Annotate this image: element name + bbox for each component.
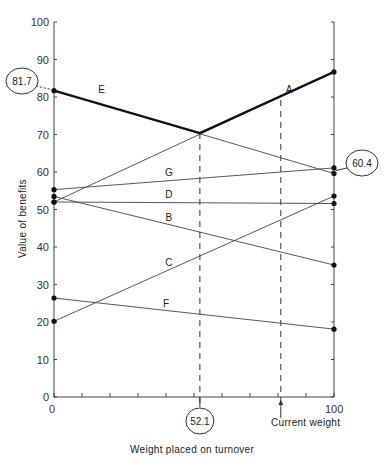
data-point [51, 187, 56, 192]
series-label-c: C [165, 257, 172, 268]
series-lines [54, 72, 334, 329]
chart: 0102030405060708090100 ABCDEFG 81.760.45… [0, 0, 384, 465]
data-point [51, 194, 56, 199]
data-point [331, 69, 336, 74]
data-point [331, 171, 336, 176]
x-tick-label-0: 0 [49, 403, 55, 415]
pointer-line [36, 86, 52, 90]
data-point [331, 165, 336, 170]
y-tick-label: 90 [37, 54, 49, 66]
series-labels: ABCDEFG [98, 84, 293, 309]
data-point [331, 262, 336, 267]
x-tick-label-100: 100 [325, 403, 343, 415]
y-tick-label: 80 [37, 91, 49, 103]
series-endpoints [51, 69, 336, 331]
x-axis-ticks [54, 393, 334, 397]
series-line-g [54, 168, 334, 190]
arrow-head-icon [278, 400, 283, 405]
data-point [51, 295, 56, 300]
y-tick-label: 60 [37, 166, 49, 178]
data-point [331, 193, 336, 198]
y-tick-label: 100 [31, 16, 49, 28]
series-line-b [54, 196, 334, 265]
y-tick-label: 50 [37, 204, 49, 216]
y-axis-title: Value of benefits [17, 179, 28, 258]
x-axis-title: Weight placed on turnover [130, 444, 254, 455]
circled-value-right-text: 60.4 [352, 158, 372, 169]
series-line-d [54, 202, 334, 204]
circled-value-bottom-text: 52.1 [190, 416, 210, 427]
data-point [331, 201, 336, 206]
upper-envelope [54, 72, 334, 133]
y-axis-ticks: 0102030405060708090100 [31, 16, 334, 403]
y-tick-label: 70 [37, 129, 49, 141]
data-point [51, 199, 56, 204]
series-label-a: A [286, 84, 293, 95]
pointer-line [336, 168, 347, 171]
series-line-f [54, 298, 334, 329]
data-point [51, 88, 56, 93]
current-weight-label: Current weight [271, 417, 340, 428]
data-point [331, 327, 336, 332]
upper-envelope-line [54, 72, 334, 133]
y-tick-label: 40 [37, 241, 49, 253]
series-label-d: D [165, 189, 172, 200]
series-label-e: E [98, 84, 105, 95]
y-tick-label: 0 [43, 391, 49, 403]
y-tick-label: 10 [37, 354, 49, 366]
series-label-f: F [163, 298, 169, 309]
y-tick-label: 30 [37, 279, 49, 291]
y-tick-label: 20 [37, 316, 49, 328]
series-label-b: B [165, 212, 172, 223]
data-point [51, 319, 56, 324]
series-label-g: G [165, 167, 173, 178]
axes [54, 22, 334, 397]
circled-value-left-text: 81.7 [12, 76, 32, 87]
annotations: 81.760.452.1 [6, 68, 378, 434]
